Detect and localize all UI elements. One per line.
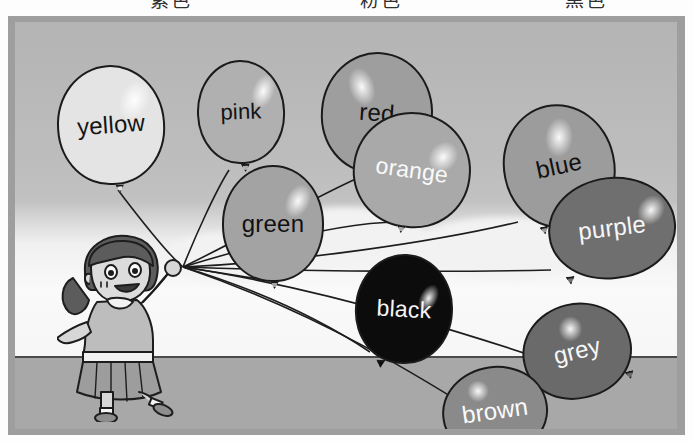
balloon-highlight: [422, 135, 465, 179]
cut-glyph-1: 粉色: [360, 0, 402, 12]
balloon-label-blue: blue: [534, 149, 584, 182]
balloon-label-orange: orange: [374, 154, 449, 187]
balloon-label-green: green: [242, 212, 304, 236]
illustration-page: 紫色粉色黑色 yellowpinkredorangegreenbluepurpl…: [0, 0, 693, 441]
balloon-highlight: [414, 281, 444, 316]
girl-character: [57, 232, 189, 422]
balloon-label-brown: brown: [460, 394, 529, 427]
scene-canvas: yellowpinkredorangegreenbluepurpleblackg…: [15, 22, 677, 429]
picture-frame: yellowpinkredorangegreenbluepurpleblackg…: [8, 16, 685, 435]
balloon-label-black: black: [376, 296, 432, 322]
balloon-highlight: [466, 379, 489, 402]
balloon-green[interactable]: green: [222, 165, 324, 282]
cut-off-header-text: 紫色粉色黑色: [0, 0, 693, 13]
cut-glyph-0: 紫色: [150, 0, 192, 12]
balloon-label-yellow: yellow: [76, 111, 145, 140]
balloon-highlight: [544, 116, 575, 158]
balloon-highlight: [343, 64, 380, 110]
balloon-highlight: [558, 315, 584, 343]
balloon-label-grey: grey: [551, 334, 603, 369]
balloon-label-purple: purple: [577, 212, 647, 244]
balloon-label-pink: pink: [220, 100, 262, 123]
cut-glyph-2: 黑色: [565, 0, 607, 12]
balloon-highlight: [279, 180, 316, 223]
